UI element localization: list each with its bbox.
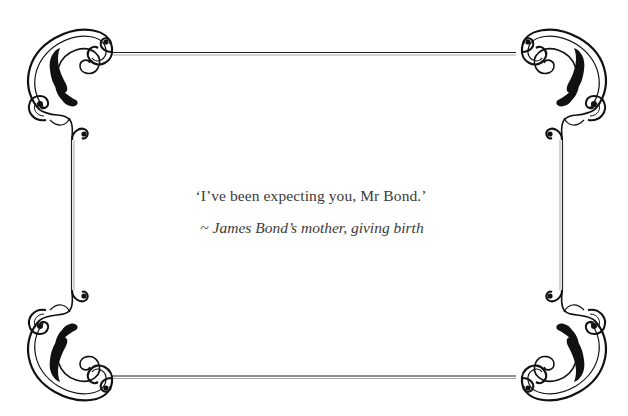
bottom-right-flourish-icon	[522, 290, 606, 400]
quote-attribution: ~ James Bond’s mother, giving birth	[0, 218, 628, 238]
top-right-flourish-icon	[522, 30, 606, 140]
top-left-flourish-icon	[28, 30, 112, 140]
bottom-left-flourish-icon	[28, 290, 112, 400]
quote-block: ‘I’ve been expecting you, Mr Bond.’ ~ Ja…	[0, 186, 628, 238]
quote-text: ‘I’ve been expecting you, Mr Bond.’	[0, 186, 628, 206]
